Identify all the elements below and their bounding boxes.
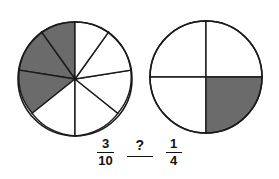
comparison-expression: 3 10 ? 1 4 (0, 137, 279, 179)
right-fraction-numerator: 1 (169, 137, 178, 151)
left-fraction-denominator: 10 (97, 154, 113, 168)
left-fraction-circle (18, 22, 132, 136)
left-fraction: 3 10 (97, 137, 113, 168)
answer-blank-line (127, 156, 153, 158)
comparison-blank[interactable]: ? (127, 138, 153, 157)
question-mark-symbol: ? (135, 138, 144, 153)
right-fraction: 1 4 (166, 137, 182, 168)
left-fraction-numerator: 3 (101, 137, 110, 151)
right-fraction-circle (150, 21, 262, 133)
fraction-comparison-worksheet: 3 10 ? 1 4 (0, 0, 279, 179)
right-fraction-denominator: 4 (169, 154, 178, 168)
